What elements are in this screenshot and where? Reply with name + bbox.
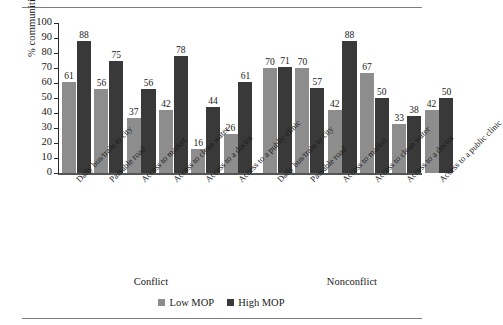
y-tick-label: 60: [26, 76, 52, 88]
bar-value-label: 42: [330, 99, 340, 109]
bar-value-label: 70: [265, 57, 275, 67]
bar-value-label: 78: [176, 45, 186, 55]
y-tick-mark: [54, 128, 59, 129]
y-tick-label: 10: [26, 151, 52, 163]
bar: 61: [238, 82, 252, 174]
bar-value-label: 42: [161, 99, 171, 109]
bar-value-label: 61: [64, 71, 74, 81]
y-tick-label: 20: [26, 136, 52, 148]
legend-item-high-mop: High MOP: [227, 297, 284, 308]
y-tick-label: 40: [26, 106, 52, 118]
y-tick-mark: [54, 143, 59, 144]
panel-label: Conflict: [134, 276, 168, 287]
bar-value-label: 42: [427, 99, 437, 109]
bottom-divider-rule: [22, 318, 422, 319]
y-tick-mark: [54, 83, 59, 84]
y-tick-label: 80: [26, 46, 52, 58]
bar-value-label: 50: [442, 87, 452, 97]
bar-value-label: 71: [280, 56, 290, 66]
bar-value-label: 70: [298, 57, 308, 67]
bar-value-label: 33: [395, 113, 405, 123]
legend-item-low-mop: Low MOP: [158, 297, 214, 308]
bar-value-label: 57: [312, 77, 322, 87]
panel-label: Nonconflict: [327, 276, 377, 287]
y-tick-label: 90: [26, 31, 52, 43]
bar-value-label: 61: [241, 71, 251, 81]
bar-value-label: 38: [409, 105, 419, 115]
y-tick-mark: [54, 38, 59, 39]
legend-label-low-mop: Low MOP: [169, 297, 214, 308]
legend-swatch-high-mop-icon: [227, 299, 234, 306]
bar-value-label: 56: [97, 78, 107, 88]
y-tick-label: 70: [26, 61, 52, 73]
bar-value-label: 37: [129, 107, 139, 117]
y-tick-mark: [54, 68, 59, 69]
bar-value-label: 75: [111, 50, 121, 60]
bar: 78: [174, 56, 188, 173]
y-tick-mark: [54, 113, 59, 114]
bar-value-label: 88: [345, 30, 355, 40]
y-tick-label: 30: [26, 121, 52, 133]
bar-value-label: 56: [144, 78, 154, 88]
legend-label-high-mop: High MOP: [238, 297, 284, 308]
y-tick-mark: [54, 173, 59, 174]
legend-swatch-low-mop-icon: [158, 299, 165, 306]
y-tick-mark: [54, 23, 59, 24]
y-tick-label: 0: [26, 166, 52, 178]
bar: 88: [77, 41, 91, 173]
bar: 56: [141, 89, 155, 173]
y-tick-mark: [54, 98, 59, 99]
bar-value-label: 50: [377, 87, 387, 97]
bar-value-label: 88: [79, 30, 89, 40]
y-tick-label: 100: [26, 16, 52, 28]
bar: 71: [278, 67, 292, 174]
y-tick-mark: [54, 53, 59, 54]
chart-legend: Low MOP High MOP: [0, 297, 443, 308]
bar: 61: [62, 82, 76, 174]
top-divider-rule: [22, 7, 422, 8]
bar-value-label: 44: [208, 96, 218, 106]
y-tick-mark: [54, 158, 59, 159]
y-tick-label: 50: [26, 91, 52, 103]
bar: 75: [109, 61, 123, 174]
bar-value-label: 67: [362, 62, 372, 72]
